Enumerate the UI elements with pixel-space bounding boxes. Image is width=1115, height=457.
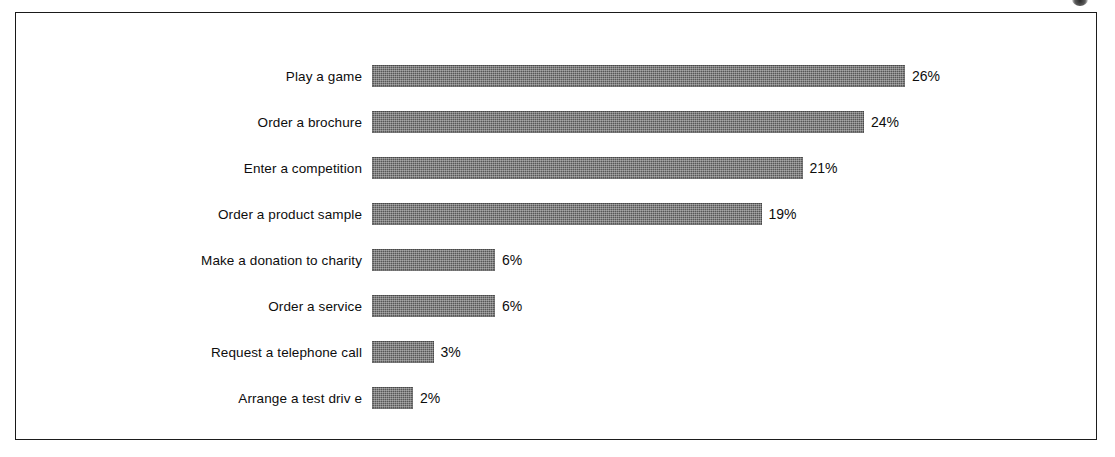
- bar-value-label: 3%: [441, 344, 461, 360]
- bar-category-label: Play a game: [286, 69, 362, 84]
- bar-category-label: Order a brochure: [258, 115, 362, 130]
- bar-row: Order a brochure24%: [16, 111, 1096, 133]
- bar-category-label: Enter a competition: [244, 161, 362, 176]
- bar-category-label: Order a product sample: [218, 207, 362, 222]
- bar-rect: [372, 341, 434, 363]
- bar-value-label: 24%: [871, 114, 899, 130]
- bar-rect: [372, 111, 864, 133]
- bar-category-label: Order a service: [268, 299, 362, 314]
- scan-artifact-smudge: [1072, 0, 1088, 6]
- bar-rect: [372, 203, 762, 225]
- bar-value-label: 19%: [769, 206, 797, 222]
- bar-category-label: Request a telephone call: [211, 345, 362, 360]
- bar-row: Arrange a test driv e2%: [16, 387, 1096, 409]
- bar-row: Order a service6%: [16, 295, 1096, 317]
- bar-value-label: 6%: [502, 252, 522, 268]
- bar-row: Order a product sample19%: [16, 203, 1096, 225]
- bar-category-label: Make a donation to charity: [201, 253, 362, 268]
- bar-rect: [372, 65, 905, 87]
- bar-value-label: 6%: [502, 298, 522, 314]
- bar-rect: [372, 295, 495, 317]
- chart-screenshot: Play a game26%Order a brochure24%Enter a…: [0, 0, 1115, 457]
- bar-row: Request a telephone call3%: [16, 341, 1096, 363]
- bar-value-label: 26%: [912, 68, 940, 84]
- bar-rect: [372, 387, 413, 409]
- bar-rect: [372, 157, 803, 179]
- bar-chart-plot-area: Play a game26%Order a brochure24%Enter a…: [16, 13, 1096, 439]
- bar-value-label: 2%: [420, 390, 440, 406]
- bar-row: Make a donation to charity6%: [16, 249, 1096, 271]
- bar-category-label: Arrange a test driv e: [238, 391, 362, 406]
- bar-row: Enter a competition21%: [16, 157, 1096, 179]
- bar-value-label: 21%: [810, 160, 838, 176]
- bar-row: Play a game26%: [16, 65, 1096, 87]
- chart-frame-border: Play a game26%Order a brochure24%Enter a…: [15, 12, 1097, 440]
- bar-rect: [372, 249, 495, 271]
